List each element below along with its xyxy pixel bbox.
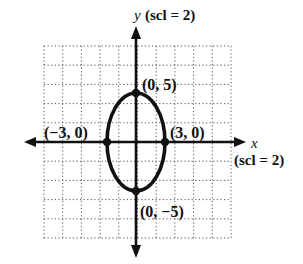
x-axis-left-arrow-icon — [24, 137, 36, 147]
y-axis-up-arrow-icon — [131, 26, 141, 39]
x-scale-label: (scl = 2) — [234, 152, 284, 169]
x-axis-right-arrow-icon — [234, 137, 246, 147]
covertex-left — [103, 138, 111, 146]
point-label-top: (0, 5) — [142, 76, 177, 94]
point-label-bottom: (0, −5) — [140, 203, 184, 221]
covertex-right — [161, 138, 169, 146]
vertex-top — [132, 89, 140, 97]
y-scale-label: (scl = 2) — [145, 7, 195, 24]
y-axis-label: y — [132, 7, 141, 23]
vertex-bottom — [132, 187, 140, 195]
x-axis-label: x — [250, 135, 258, 151]
point-label-left: (−3, 0) — [44, 124, 88, 142]
y-axis-down-arrow-icon — [131, 245, 141, 258]
point-label-right: (3, 0) — [170, 124, 205, 142]
ellipse-graph: y (scl = 2) x (scl = 2) (0, 5) (−3, 0) (… — [0, 0, 303, 264]
